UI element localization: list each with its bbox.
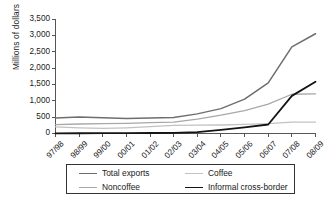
chart-legend: Total exportsCoffeeNoncoffeeInformal cro… [66,164,295,194]
legend-label: Informal cross-border [208,183,288,192]
legend-swatch-icon [185,187,203,188]
legend-label: Coffee [208,169,233,178]
legend-item[interactable]: Coffee [185,166,233,181]
legend-item[interactable]: Informal cross-border [185,180,288,195]
legend-swatch-icon [79,187,97,188]
legend-item[interactable]: Noncoffee [79,180,140,195]
chart-figure: Millions of dollars 05001,0001,5002,0002… [0,0,324,210]
legend-label: Noncoffee [102,183,140,192]
legend-item[interactable]: Total exports [79,166,149,181]
legend-swatch-icon [79,173,97,174]
legend-swatch-icon [185,173,203,174]
legend-label: Total exports [102,169,149,178]
